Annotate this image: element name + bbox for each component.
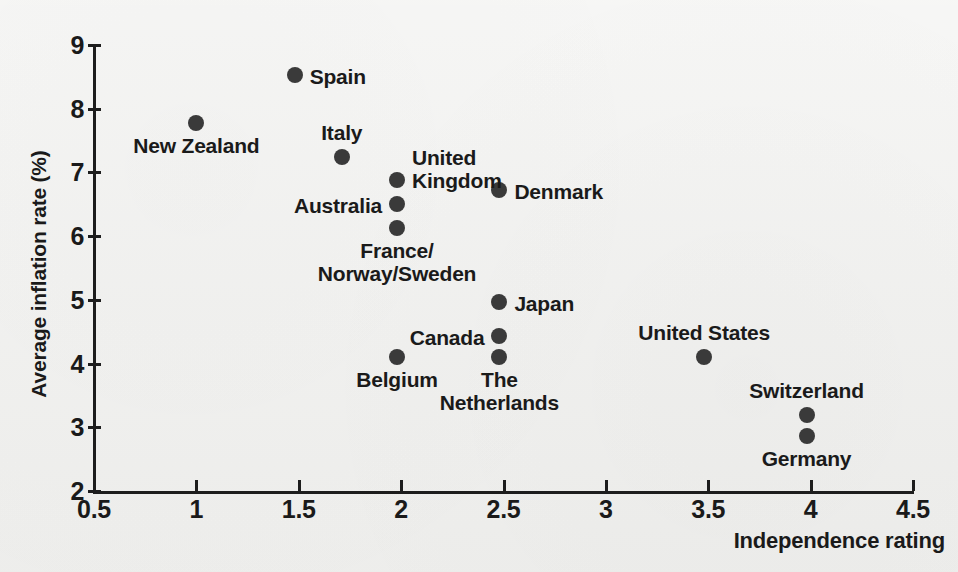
x-tick-1 <box>195 480 198 491</box>
x-tick-4.5 <box>912 480 915 491</box>
x-tick-3.5 <box>707 480 710 491</box>
data-point-italy[interactable] <box>334 149 350 165</box>
y-tick-label-2: 2 <box>70 477 84 506</box>
data-point-germany[interactable] <box>799 428 815 444</box>
x-tick-3 <box>605 480 608 491</box>
y-tick-label-8: 8 <box>70 94 84 123</box>
x-tick-label-4.5: 4.5 <box>896 495 930 524</box>
y-tick-5 <box>88 299 101 302</box>
x-tick-label-3: 3 <box>599 495 613 524</box>
data-point-switzerland[interactable] <box>799 407 815 423</box>
x-tick-label-1: 1 <box>190 495 204 524</box>
point-label-spain: Spain <box>310 64 366 87</box>
y-tick-9 <box>88 44 101 47</box>
point-label-the-netherlands: The Netherlands <box>440 368 559 414</box>
data-point-united-states[interactable] <box>696 349 712 365</box>
data-point-new-zealand[interactable] <box>188 115 204 131</box>
x-tick-4 <box>810 480 813 491</box>
point-label-new-zealand: New Zealand <box>133 134 259 157</box>
point-label-united-states: United States <box>638 321 770 344</box>
x-tick-2.5 <box>503 480 506 491</box>
point-label-france-norway-sweden: France/ Norway/Sweden <box>318 239 476 285</box>
point-label-canada: Canada <box>410 326 485 349</box>
point-label-united-kingdom: United Kingdom <box>412 146 502 192</box>
x-axis-title: Independence rating <box>560 528 945 554</box>
y-tick-2 <box>88 490 101 493</box>
x-tick-2 <box>400 480 403 491</box>
y-tick-label-6: 6 <box>70 222 84 251</box>
x-tick-label-1.5: 1.5 <box>282 495 316 524</box>
data-point-france-norway-sweden[interactable] <box>389 220 405 236</box>
y-tick-3 <box>88 426 101 429</box>
y-tick-label-3: 3 <box>70 413 84 442</box>
point-label-germany: Germany <box>762 447 852 470</box>
point-label-australia: Australia <box>294 194 382 217</box>
point-label-japan: Japan <box>514 291 574 314</box>
x-tick-label-2: 2 <box>394 495 408 524</box>
x-tick-label-4: 4 <box>804 495 818 524</box>
y-axis-title: Average inflation rate (%) <box>27 109 51 439</box>
plot-area: 0.511.522.533.544.5 98765432 SpainNew Ze… <box>0 0 958 572</box>
point-label-denmark: Denmark <box>514 179 602 202</box>
y-tick-label-7: 7 <box>70 158 84 187</box>
data-point-belgium[interactable] <box>389 349 405 365</box>
y-tick-6 <box>88 235 101 238</box>
x-axis-line <box>94 491 914 494</box>
data-point-canada[interactable] <box>491 328 507 344</box>
data-point-spain[interactable] <box>287 67 303 83</box>
x-tick-label-3.5: 3.5 <box>691 495 725 524</box>
data-point-australia[interactable] <box>389 196 405 212</box>
point-label-belgium: Belgium <box>356 368 437 391</box>
y-tick-label-5: 5 <box>70 285 84 314</box>
point-label-italy: Italy <box>321 121 362 144</box>
data-point-united-kingdom[interactable] <box>389 172 405 188</box>
scatter-chart-figure: 0.511.522.533.544.5 98765432 SpainNew Ze… <box>0 0 958 572</box>
y-tick-4 <box>88 363 101 366</box>
y-tick-8 <box>88 108 101 111</box>
data-point-the-netherlands[interactable] <box>491 349 507 365</box>
data-point-japan[interactable] <box>491 294 507 310</box>
point-label-switzerland: Switzerland <box>749 379 864 402</box>
x-tick-1.5 <box>298 480 301 491</box>
y-tick-label-4: 4 <box>70 349 84 378</box>
x-tick-label-2.5: 2.5 <box>487 495 521 524</box>
y-tick-7 <box>88 171 101 174</box>
y-tick-label-9: 9 <box>70 31 84 60</box>
